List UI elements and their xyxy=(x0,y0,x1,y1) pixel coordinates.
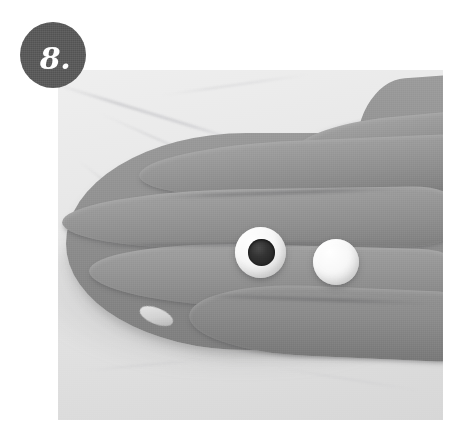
clay-plain-ball xyxy=(313,239,359,285)
step-number-label: 8. xyxy=(40,44,70,74)
craft-step-photograph xyxy=(58,70,443,420)
thumb-pad xyxy=(188,281,443,364)
page-root: 8. xyxy=(0,0,463,439)
step-number-badge: 8. xyxy=(20,22,86,88)
clay-eye-pupil xyxy=(248,239,275,266)
